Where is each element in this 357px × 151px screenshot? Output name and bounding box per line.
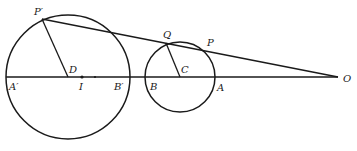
point-mid-dot — [94, 76, 96, 78]
radius-C-Q — [166, 43, 180, 77]
label-Q: Q — [163, 29, 171, 40]
label-B: B — [149, 81, 157, 92]
label-D: D — [68, 64, 77, 75]
label-B-prime: B′ — [113, 81, 124, 92]
label-A-prime: A′ — [8, 81, 19, 92]
radius-D-P-prime — [42, 19, 68, 77]
label-C: C — [181, 64, 189, 75]
label-A: A — [216, 82, 224, 93]
label-P-prime: P′ — [33, 6, 44, 17]
label-P: P — [206, 37, 214, 48]
geometry-diagram: P′ D I A′ B′ B C Q P A O — [0, 0, 357, 151]
label-I: I — [78, 81, 84, 92]
secant-line-P-prime-O — [42, 19, 338, 77]
label-O: O — [343, 73, 351, 84]
point-I-dot — [80, 75, 83, 78]
